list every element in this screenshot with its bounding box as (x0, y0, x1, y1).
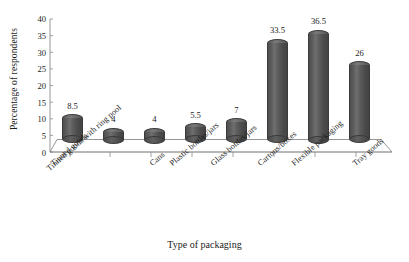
bar-chart: Percentage of respondents 0 5 10 15 20 2… (0, 0, 409, 262)
bar-body (308, 34, 329, 140)
value-label-tinned-goods: 8.5 (52, 102, 93, 111)
bar-tinned-goods-ring-pool (103, 128, 124, 140)
bar-foot (144, 136, 165, 144)
bar-flexible-packaging (308, 30, 329, 140)
value-label-tray-goods: 26 (339, 49, 380, 58)
bar-body (267, 43, 288, 140)
x-axis-title: Type of packaging (0, 239, 409, 250)
value-label-cans: 4 (134, 115, 175, 124)
bar-cans (144, 128, 165, 140)
value-label-plastic-bottles-jars: 5.5 (175, 111, 216, 120)
bar-tray-goods (349, 61, 370, 139)
bar-cartons-boxes (267, 39, 288, 140)
value-label-flexible-packaging: 36.5 (298, 17, 339, 26)
bar-body (349, 65, 370, 139)
value-label-glass-bottles-jars: 7 (216, 106, 257, 115)
value-label-cartons-boxes: 33.5 (257, 26, 298, 35)
bar-foot (103, 136, 124, 144)
